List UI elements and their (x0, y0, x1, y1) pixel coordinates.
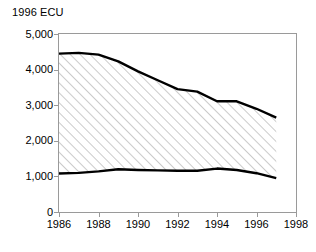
y-tick-label: 4,000 (7, 64, 53, 75)
x-tick-mark (138, 213, 139, 217)
y-axis-labels: 01,0002,0003,0004,0005,000 (5, 0, 53, 252)
plot-area (58, 33, 297, 213)
chart-container: 1996 ECU 01,0002,0003,0004,0005,000 1986… (0, 0, 316, 252)
x-tick-mark (257, 213, 258, 217)
x-tick-mark (99, 213, 100, 217)
x-tick-label: 1996 (235, 218, 279, 231)
y-tick-label: 1,000 (7, 171, 53, 182)
y-tick-label: 2,000 (7, 135, 53, 146)
x-tick-mark (59, 213, 60, 217)
x-tick-label: 1998 (274, 218, 316, 231)
x-axis-labels: 1986198819901992199419961998 (0, 218, 316, 238)
x-tick-mark (296, 213, 297, 217)
y-tick-label: 0 (7, 207, 53, 218)
y-tick-label: 3,000 (7, 100, 53, 111)
x-tick-label: 1990 (116, 218, 160, 231)
plot-svg (59, 34, 296, 212)
x-tick-label: 1988 (77, 218, 121, 231)
x-tick-label: 1992 (156, 218, 200, 231)
x-tick-mark (217, 213, 218, 217)
band-group (59, 53, 276, 178)
x-tick-label: 1986 (37, 218, 81, 231)
x-tick-label: 1994 (195, 218, 239, 231)
hatched-band (59, 53, 276, 178)
x-tick-mark (178, 213, 179, 217)
y-tick-label: 5,000 (7, 29, 53, 40)
